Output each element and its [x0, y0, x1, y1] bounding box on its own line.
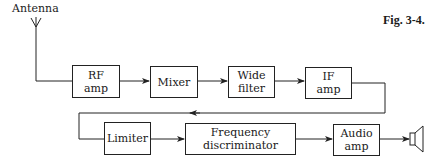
block-mixer: Mixer [150, 66, 198, 98]
block-if-amp: IFamp [305, 67, 352, 99]
block-label: Audio [340, 127, 372, 140]
block-frequency-discriminator: Frequencydiscriminator [185, 123, 296, 155]
block-label: discriminator [203, 139, 278, 152]
block-label: amp [316, 83, 340, 96]
block-label: IF [316, 70, 340, 83]
antenna-icon [31, 17, 41, 81]
block-label: Mixer [158, 76, 191, 89]
block-label: Limiter [107, 132, 148, 145]
block-limiter: Limiter [104, 122, 151, 155]
figure-label: Fig. 3-4. [383, 13, 425, 28]
block-label: amp [340, 140, 372, 153]
block-audio-amp: Audioamp [333, 124, 380, 156]
block-label: RF [84, 69, 108, 82]
speaker-icon [410, 126, 423, 152]
block-label: Wide [237, 69, 265, 82]
block-wide-filter: Widefilter [228, 66, 275, 98]
block-label: Frequency [203, 126, 278, 139]
block-rf-amp: RFamp [72, 65, 120, 98]
block-label: filter [237, 82, 265, 95]
antenna-label: Antenna [12, 2, 59, 15]
block-label: amp [84, 82, 108, 95]
